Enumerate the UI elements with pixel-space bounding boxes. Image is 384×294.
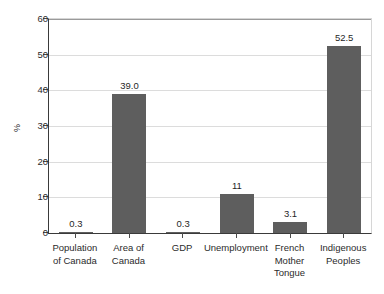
bar-value-label: 0.3 [177,218,190,229]
x-category-label: Unemployment [204,242,268,255]
x-category-label-line: Unemployment [204,242,268,255]
x-category-label: GDP [172,242,193,255]
x-category-label: Area ofCanada [112,242,145,267]
bar-value-label: 3.1 [284,208,297,219]
x-tick-mark [290,233,291,238]
x-tick-mark [343,233,344,238]
y-tick-label: 60 [20,13,48,24]
bar-value-label: 52.5 [335,32,354,43]
bar-slot: 52.5 [317,19,371,233]
bar-slot: 3.1 [264,19,318,233]
bar[interactable] [273,222,307,233]
bar-value-label: 11 [232,180,242,191]
x-category-label-line: GDP [172,242,193,255]
bar-slot: 0.3 [49,19,103,233]
bars-layer: 0.339.00.3113.152.5 [49,19,371,233]
x-tick-mark [129,233,130,238]
plot-area: 0.339.00.3113.152.5 [48,18,372,234]
bar-value-label: 39.0 [120,80,139,91]
x-category-label: Populationof Canada [52,242,97,267]
x-category-label-line: Peoples [320,255,366,268]
y-tick-label: 50 [20,48,48,59]
bar-slot: 0.3 [156,19,210,233]
x-category-label: FrenchMotherTongue [274,242,305,280]
bar[interactable] [220,194,254,233]
x-tick-mark [75,233,76,238]
x-category-label-line: Mother [274,255,305,268]
x-category-label-line: Indigenous [320,242,366,255]
x-category-label-line: French [274,242,305,255]
x-category-label-line: Population [52,242,97,255]
x-category-label-line: Tongue [274,267,305,280]
bar[interactable] [166,232,200,234]
bar[interactable] [59,232,93,234]
y-tick-label: 10 [20,191,48,202]
x-category-label-line: of Canada [52,255,97,268]
y-tick-label: 30 [20,120,48,131]
x-category-label-line: Canada [112,255,145,268]
bar-slot: 11 [210,19,264,233]
y-tick-label: 0 [20,227,48,238]
bar[interactable] [112,94,146,233]
y-tick-label: 40 [20,84,48,95]
y-tick-label: 20 [20,155,48,166]
x-category-label-line: Area of [112,242,145,255]
bar-value-label: 0.3 [69,218,82,229]
bar-slot: 39.0 [103,19,157,233]
bar-chart: % 0102030405060 0.339.00.3113.152.5 Popu… [0,0,384,294]
bar[interactable] [327,46,361,233]
x-tick-mark [182,233,183,238]
x-tick-mark [236,233,237,238]
x-category-label: IndigenousPeoples [320,242,366,267]
